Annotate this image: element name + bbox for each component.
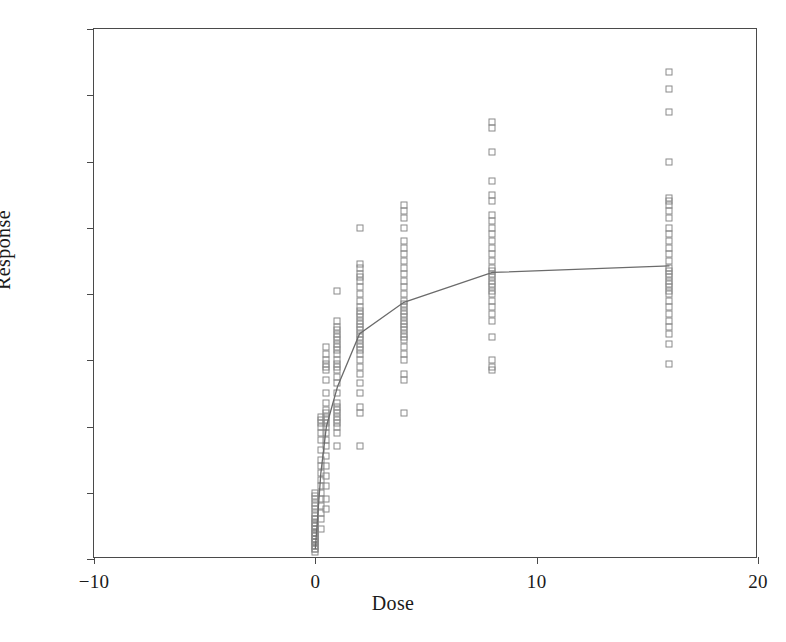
y-tick [87, 559, 94, 560]
data-point-marker [400, 344, 407, 351]
data-point-marker [356, 380, 363, 387]
data-point-marker [666, 297, 673, 304]
data-point-marker [334, 373, 341, 380]
data-point-marker [400, 277, 407, 284]
y-tick [87, 294, 94, 295]
data-point-marker [489, 191, 496, 198]
data-point-marker [323, 453, 330, 460]
data-point-marker [334, 400, 341, 407]
data-point-marker [489, 334, 496, 341]
data-point-marker [400, 208, 407, 215]
data-point-marker [666, 69, 673, 76]
y-tick [87, 95, 94, 96]
data-point-marker [400, 264, 407, 271]
data-point-marker [489, 310, 496, 317]
data-point-marker [666, 231, 673, 238]
data-point-marker [334, 317, 341, 324]
data-point-marker [356, 370, 363, 377]
y-tick [87, 29, 94, 30]
data-point-marker [666, 257, 673, 264]
data-point-marker [666, 324, 673, 331]
data-point-marker [489, 264, 496, 271]
y-tick [87, 228, 94, 229]
data-point-marker [400, 377, 407, 384]
x-tick [537, 557, 538, 564]
data-point-marker [356, 410, 363, 417]
data-point-marker [666, 264, 673, 271]
data-point-marker [666, 158, 673, 165]
data-point-marker [334, 443, 341, 450]
data-point-marker [400, 410, 407, 417]
data-point-marker [323, 473, 330, 480]
scatter-chart: Response Dose 0.00.20.40.60.81.01.21.41.… [0, 0, 786, 642]
data-point-marker [323, 436, 330, 443]
data-point-marker [334, 390, 341, 397]
data-point-marker [400, 201, 407, 208]
data-point-marker [489, 244, 496, 251]
data-point-marker [489, 357, 496, 364]
x-axis-title: Dose [0, 592, 786, 615]
data-point-marker [489, 317, 496, 324]
data-point-marker [356, 357, 363, 364]
data-point-marker [489, 148, 496, 155]
data-point-marker [489, 363, 496, 370]
data-point-marker [489, 218, 496, 225]
data-point-marker [666, 304, 673, 311]
data-point-marker [666, 244, 673, 251]
data-point-marker [666, 360, 673, 367]
data-point-marker [323, 496, 330, 503]
data-point-marker [323, 443, 330, 450]
x-tick-label: 20 [748, 571, 768, 593]
data-point-marker [356, 443, 363, 450]
data-point-marker [666, 208, 673, 215]
data-point-marker [334, 357, 341, 364]
data-point-marker [666, 310, 673, 317]
data-point-marker [400, 370, 407, 377]
data-point-marker [323, 430, 330, 437]
data-point-marker [323, 463, 330, 470]
data-point-marker [323, 400, 330, 407]
data-point-marker [356, 224, 363, 231]
x-tick [94, 557, 95, 564]
data-point-marker [400, 271, 407, 278]
data-point-marker [323, 506, 330, 513]
x-tick [315, 557, 316, 564]
data-point-marker [666, 330, 673, 337]
data-point-marker [666, 214, 673, 221]
data-point-marker [489, 178, 496, 185]
data-point-marker [356, 390, 363, 397]
data-point-marker [400, 291, 407, 298]
data-point-marker [400, 357, 407, 364]
y-tick [87, 162, 94, 163]
plot-area: 0.00.20.40.60.81.01.21.41.6 −1001020 [93, 28, 757, 558]
data-point-marker [489, 231, 496, 238]
x-tick-label: 0 [310, 571, 320, 593]
data-point-marker [356, 291, 363, 298]
data-point-marker [489, 125, 496, 132]
data-point-marker [323, 357, 330, 364]
data-point-marker [666, 340, 673, 347]
data-point-marker [356, 297, 363, 304]
data-point-marker [400, 284, 407, 291]
data-point-marker [323, 350, 330, 357]
data-point-marker [356, 403, 363, 410]
data-point-marker [356, 271, 363, 278]
data-point-marker [489, 304, 496, 311]
data-point-marker [323, 390, 330, 397]
y-tick [87, 360, 94, 361]
data-point-marker [489, 251, 496, 258]
data-point-marker [489, 257, 496, 264]
y-tick [87, 427, 94, 428]
data-point-marker [334, 287, 341, 294]
x-tick-label: −10 [79, 571, 110, 593]
data-point-marker [489, 118, 496, 125]
x-tick [758, 557, 759, 564]
data-point-marker [400, 238, 407, 245]
data-point-marker [356, 284, 363, 291]
data-point-marker [400, 244, 407, 251]
y-axis-title: Response [0, 210, 15, 290]
data-point-marker [400, 214, 407, 221]
data-point-marker [317, 516, 324, 523]
data-point-marker [489, 297, 496, 304]
data-point-marker [489, 211, 496, 218]
